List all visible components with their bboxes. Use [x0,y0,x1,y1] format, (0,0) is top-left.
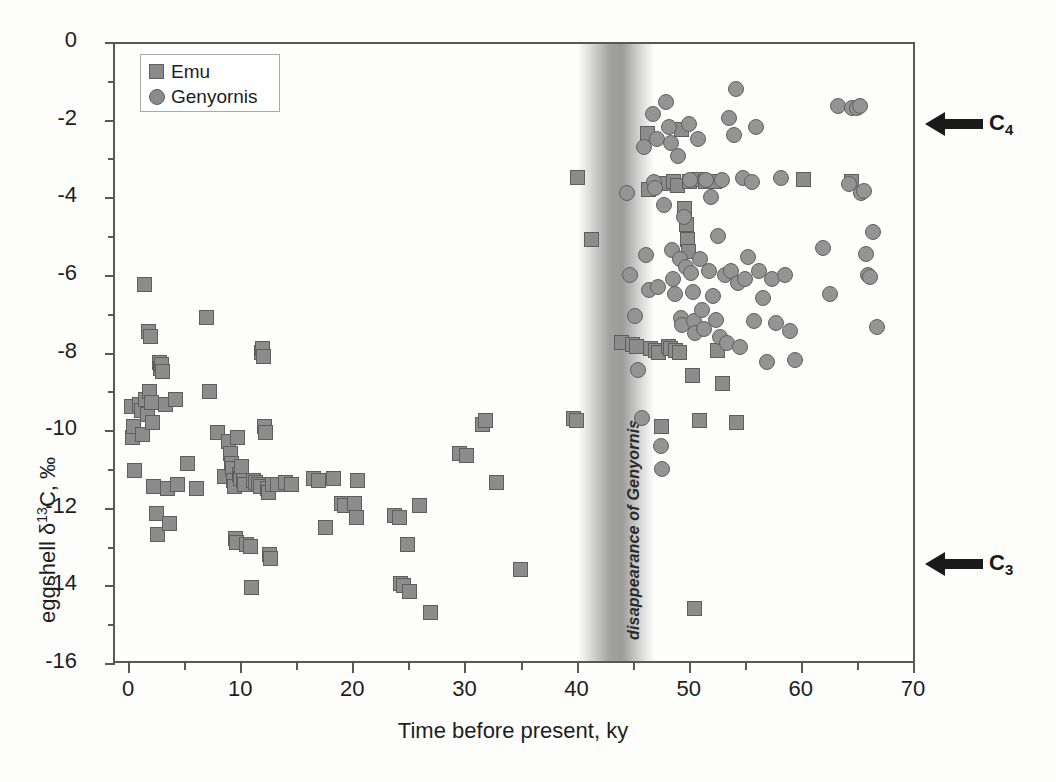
data-point-genyornis [650,279,666,295]
x-tick [857,663,859,670]
chart-legend: Emu Genyornis [140,54,280,112]
data-point-emu [189,481,204,496]
data-point-genyornis [858,246,874,262]
data-point-genyornis [698,172,714,188]
x-tick-label: 70 [883,676,943,702]
y-tick [108,624,115,626]
data-point-emu [729,415,744,430]
y-axis-title: eggshell δ13C, ‰ [34,457,61,623]
y-tick-label: -6 [25,260,77,286]
data-point-emu [155,364,170,379]
data-point-emu [243,539,258,554]
y-tick-label: -10 [25,415,77,441]
y-tick [105,430,115,432]
data-point-emu [687,601,702,616]
data-point-genyornis [681,116,697,132]
data-point-genyornis [708,312,724,328]
x-tick [408,663,410,670]
data-point-emu [715,376,730,391]
data-point-emu [137,277,152,292]
y-tick [108,314,115,316]
data-point-genyornis [656,197,672,213]
x-tick [240,663,242,673]
data-point-genyornis [645,106,661,122]
data-point-emu [180,456,195,471]
data-point-genyornis [755,290,771,306]
legend-label-genyornis: Genyornis [171,86,258,108]
data-point-genyornis [701,263,717,279]
data-point-emu [685,368,700,383]
c3-annotation: C3 [925,550,1013,578]
data-point-emu [168,392,183,407]
x-axis-title: Time before present, ky [113,718,913,744]
y-tick [105,353,115,355]
data-point-emu [584,232,599,247]
data-point-emu [311,473,326,488]
data-point-genyornis [676,209,692,225]
y-tick [105,197,115,199]
x-tick [352,663,354,673]
x-tick-label: 30 [434,676,494,702]
data-point-emu [629,339,644,354]
data-point-emu [318,520,333,535]
data-point-genyornis [627,308,643,324]
data-point-genyornis [661,119,677,135]
x-tick [633,663,635,670]
legend-item-genyornis: Genyornis [149,84,279,109]
y-tick [108,158,115,160]
data-point-genyornis [710,228,726,244]
data-point-genyornis [777,267,793,283]
data-point-emu [170,477,185,492]
data-point-genyornis [726,127,742,143]
x-tick [296,663,298,670]
x-tick-label: 20 [322,676,382,702]
data-point-emu [478,413,493,428]
x-tick-label: 10 [210,676,270,702]
data-point-genyornis [653,438,669,454]
plot-frame-top [113,42,913,44]
y-tick [108,547,115,549]
y-tick [105,42,115,44]
data-point-emu [400,537,415,552]
x-tick [745,663,747,670]
data-point-genyornis [682,172,698,188]
y-tick-label: -2 [25,105,77,131]
data-point-genyornis [683,265,699,281]
x-tick-label: 60 [771,676,831,702]
x-tick [184,663,186,670]
data-point-emu [392,510,407,525]
data-point-genyornis [654,461,670,477]
data-point-emu [412,498,427,513]
legend-circle-marker-icon [149,89,165,105]
x-tick [464,663,466,673]
x-tick-label: 40 [547,676,607,702]
y-tick-label: -16 [25,648,77,674]
data-point-genyornis [728,81,744,97]
y-tick-label: 0 [25,27,77,53]
legend-item-emu: Emu [149,59,279,84]
data-point-emu [244,580,259,595]
x-tick [689,663,691,673]
data-point-emu [796,172,811,187]
data-point-emu [350,473,365,488]
c4-label: C4 [989,110,1013,138]
data-point-emu [162,516,177,531]
data-point-emu [692,413,707,428]
data-point-genyornis [782,323,798,339]
data-point-emu [459,448,474,463]
data-point-emu [326,471,341,486]
data-point-emu [423,605,438,620]
c4-annotation: C4 [925,110,1013,138]
x-tick [128,663,130,673]
x-tick [913,663,915,673]
y-tick-label: -8 [25,338,77,364]
data-point-emu [145,415,160,430]
data-point-emu [672,345,687,360]
plot-frame-right [913,42,915,663]
data-point-genyornis [815,240,831,256]
data-point-emu [513,562,528,577]
y-tick [105,663,115,665]
data-point-genyornis [865,224,881,240]
eggshell-isotope-scatter-chart: disappearance of Genyornis 0-2-4-6-8-10-… [0,0,1056,782]
data-point-emu [263,551,278,566]
